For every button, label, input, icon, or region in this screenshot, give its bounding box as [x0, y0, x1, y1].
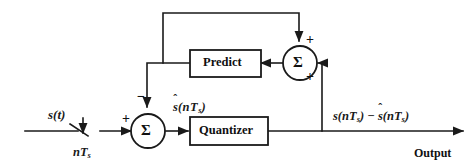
sum-main-symbol: Σ [141, 123, 151, 138]
dpcm-block-diagram: s(t) nTs + − Σ Σ + + Predict Quantizer s… [0, 0, 475, 165]
sum-feedback-symbol: Σ [293, 55, 303, 70]
diagram-wiring [0, 0, 475, 165]
feedback-sum-top-plus-sign: + [306, 33, 314, 47]
predicted-hat-var: s [173, 101, 178, 114]
output-expr-hat-var: s [378, 110, 383, 123]
output-word-label: Output [414, 147, 451, 159]
predict-block-label: Predict [203, 56, 242, 69]
input-signal-label: s(t) [48, 108, 65, 121]
quantizer-block-label: Quantizer [199, 124, 253, 137]
main-sum-plus-sign: + [122, 112, 130, 126]
predicted-signal-label: s(nTs) [173, 101, 206, 114]
output-expr-minus: ) − [360, 109, 378, 123]
output-expr-first-term: s(nT [333, 109, 357, 123]
predicted-close-paren: ) [201, 100, 205, 114]
feedback-sum-right-plus-sign: + [306, 70, 314, 84]
output-expr-close-paren: ) [405, 109, 409, 123]
sampling-rate-subscript: s [88, 150, 91, 160]
sampling-rate-text: nT [73, 145, 88, 159]
switch-blade [70, 124, 88, 136]
main-sum-minus-sign: − [137, 90, 145, 104]
predicted-arg: (nT [178, 100, 198, 114]
sampling-rate-label: nTs [73, 146, 91, 159]
wire-output-tap-to-feedback-sum [318, 63, 322, 131]
output-expr-second-term: (nT [383, 109, 402, 123]
output-expression-label: s(nTs) − s(nTs) [333, 110, 409, 123]
